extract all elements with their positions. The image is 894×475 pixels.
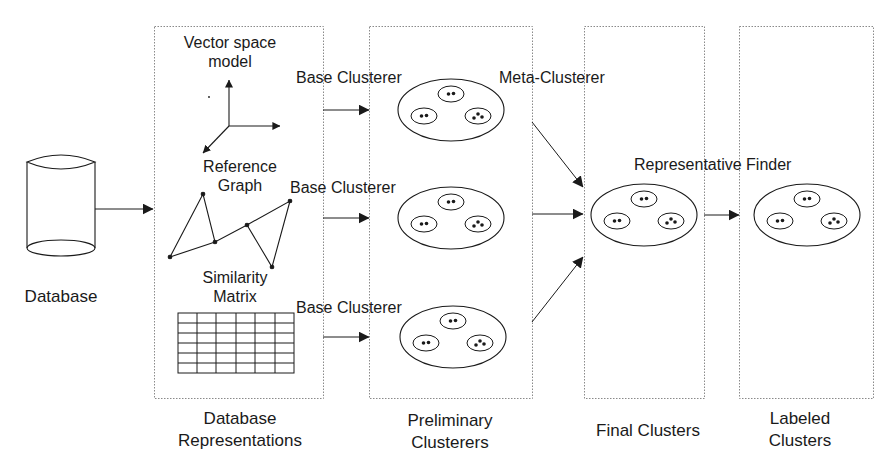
stage-label-line1: Final Clusters bbox=[578, 420, 718, 442]
data-point bbox=[425, 222, 429, 226]
representative-finder-label: Representative Finder bbox=[634, 155, 791, 174]
data-point bbox=[828, 221, 832, 225]
base-clusterer-label-3: Base Clusterer bbox=[296, 298, 402, 317]
data-point bbox=[449, 319, 453, 323]
data-point bbox=[420, 114, 424, 118]
data-point bbox=[669, 217, 673, 221]
data-point bbox=[618, 219, 622, 223]
data-point bbox=[640, 197, 644, 201]
stage-label-line1: Preliminary bbox=[385, 410, 515, 432]
data-point bbox=[452, 92, 456, 96]
stage-label-database-representations: Database Representations bbox=[160, 408, 320, 452]
data-point bbox=[454, 319, 458, 323]
stage-label-line1: Labeled bbox=[740, 408, 860, 430]
vector-space-label-line2: model bbox=[170, 52, 290, 71]
background bbox=[0, 0, 894, 475]
similarity-matrix-label-line2: Matrix bbox=[190, 287, 280, 306]
vector-space-label-line1: Vector space bbox=[170, 33, 290, 52]
stage-label-line1: Database bbox=[160, 408, 320, 430]
reference-graph-label-line2: Graph bbox=[190, 176, 290, 195]
data-point bbox=[836, 220, 840, 224]
vector-space-label: Vector space model bbox=[170, 33, 290, 71]
figure bbox=[0, 0, 894, 475]
database-label: Database bbox=[14, 286, 108, 308]
data-point bbox=[447, 200, 451, 204]
data-point bbox=[673, 220, 677, 224]
stage-label-preliminary-clusterers: Preliminary Clusterers bbox=[385, 410, 515, 454]
data-point bbox=[472, 116, 476, 120]
data-point bbox=[427, 341, 431, 345]
data-point bbox=[425, 114, 429, 118]
data-point bbox=[474, 343, 478, 347]
similarity-matrix-label: Similarity Matrix bbox=[190, 268, 280, 306]
base-clusterer-label-2: Base Clusterer bbox=[290, 178, 396, 197]
data-point bbox=[665, 221, 669, 225]
data-point bbox=[480, 115, 484, 119]
meta-clusterer-label: Meta-Clusterer bbox=[499, 68, 605, 87]
data-point bbox=[482, 342, 486, 346]
data-point bbox=[476, 112, 480, 116]
data-point bbox=[476, 220, 480, 224]
data-point bbox=[776, 219, 780, 223]
data-point bbox=[645, 197, 649, 201]
data-point bbox=[422, 341, 426, 345]
reference-graph-label: Reference Graph bbox=[190, 157, 290, 195]
data-point bbox=[781, 219, 785, 223]
stage-label-labeled-clusters: Labeled Clusters bbox=[740, 408, 860, 452]
data-point bbox=[420, 222, 424, 226]
stage-label-line2: Representations bbox=[160, 430, 320, 452]
reference-graph-label-line1: Reference bbox=[190, 157, 290, 176]
data-point bbox=[472, 224, 476, 228]
data-point bbox=[480, 223, 484, 227]
similarity-matrix-label-line1: Similarity bbox=[190, 268, 280, 287]
base-clusterer-label-1: Base Clusterer bbox=[296, 68, 402, 87]
data-point bbox=[803, 197, 807, 201]
data-point bbox=[832, 217, 836, 221]
stray-dot bbox=[208, 96, 210, 98]
data-point bbox=[447, 92, 451, 96]
stage-label-final-clusters: Final Clusters bbox=[578, 420, 718, 442]
data-point bbox=[452, 200, 456, 204]
data-point bbox=[808, 197, 812, 201]
stage-label-line2: Clusters bbox=[740, 430, 860, 452]
stage-label-line2: Clusterers bbox=[385, 432, 515, 454]
data-point bbox=[478, 339, 482, 343]
data-point bbox=[613, 219, 617, 223]
database-cylinder-icon bbox=[27, 155, 95, 256]
